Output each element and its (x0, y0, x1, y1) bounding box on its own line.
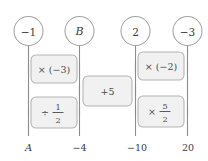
node-circle-group: −1 B 2 −3 (14, 17, 202, 46)
op-box-multiply-five-halves-numerator: 5 (162, 101, 167, 111)
axis-label-a: A (24, 142, 32, 153)
op-box-divide-half[interactable]: ÷ 1 2 (31, 97, 77, 128)
axis-label-20: 20 (182, 142, 194, 153)
op-box-multiply-neg2-label: × (−2) (145, 61, 177, 72)
node-circle-1[interactable]: −1 (14, 17, 43, 46)
function-machine-diagram: × (−3) ÷ 1 2 +5 × (−2) (0, 0, 208, 161)
node-circle-2[interactable]: B (65, 17, 94, 46)
op-box-multiply-neg3-label: × (−3) (38, 64, 70, 75)
op-box-divide-half-operator: ÷ (41, 107, 49, 118)
node-circle-4-label: −3 (180, 26, 195, 38)
op-box-multiply-neg3[interactable]: × (−3) (31, 55, 77, 83)
op-box-divide-half-denominator: 2 (55, 115, 60, 125)
op-box-multiply-five-halves-operator: × (148, 106, 156, 117)
op-box-multiply-five-halves[interactable]: × 5 2 (138, 96, 184, 127)
node-circle-3[interactable]: 2 (121, 17, 150, 46)
op-box-plus-5[interactable]: +5 (83, 76, 132, 106)
node-circle-3-label: 2 (132, 26, 139, 38)
node-circle-4[interactable]: −3 (173, 17, 202, 46)
node-circle-1-label: −1 (21, 26, 36, 38)
node-circle-2-label: B (74, 25, 83, 38)
op-box-plus-5-label: +5 (100, 86, 114, 97)
op-box-divide-half-numerator: 1 (55, 102, 60, 112)
op-box-multiply-five-halves-denominator: 2 (162, 114, 167, 124)
axis-label-neg4: −4 (72, 142, 86, 153)
axis-label-neg10: −10 (127, 142, 147, 153)
axis-label-group: A −4 −10 20 (24, 142, 194, 153)
op-box-multiply-neg2[interactable]: × (−2) (138, 52, 184, 80)
operation-box-group: × (−3) ÷ 1 2 +5 × (−2) (31, 52, 184, 128)
